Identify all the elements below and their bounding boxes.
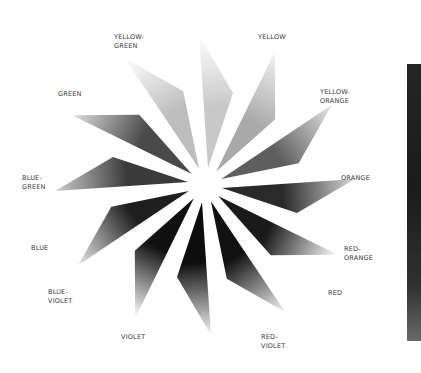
label-red-violet: RED- VIOLET <box>261 333 285 351</box>
label-red-orange: RED- ORANGE <box>344 245 373 263</box>
label-yellow-green: YELLOW- GREEN <box>114 33 144 51</box>
color-wheel <box>0 0 421 373</box>
label-yellow-orange: YELLOW- ORANGE <box>320 88 350 106</box>
label-yellow: YELLOW <box>258 33 286 42</box>
color-wheel-blades <box>55 35 355 335</box>
label-blue-green: BLUE- GREEN <box>22 174 46 192</box>
label-violet: VIOLET <box>121 333 145 342</box>
label-blue-violet: BLUE- VIOLET <box>48 288 72 306</box>
label-green: GREEN <box>58 90 82 99</box>
label-orange: ORANGE <box>341 174 370 183</box>
gray-value-bar <box>407 64 421 341</box>
label-blue: BLUE <box>31 244 48 253</box>
label-red: RED <box>328 289 342 298</box>
